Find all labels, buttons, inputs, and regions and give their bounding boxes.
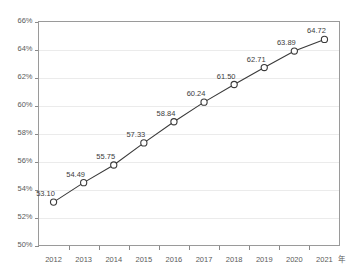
data-point-label: 60.24: [187, 89, 206, 98]
y-axis-tick-label: 66%: [17, 16, 32, 25]
data-point-marker: [261, 64, 267, 70]
data-point-label: 61.50: [217, 72, 236, 81]
data-point-marker: [291, 48, 297, 54]
x-axis-tick-label: 2013: [75, 255, 92, 264]
data-point-label: 58.84: [157, 109, 176, 118]
data-point-label: 55.75: [96, 152, 115, 161]
data-point-markers: [50, 36, 327, 205]
data-point-label: 53.10: [36, 189, 55, 198]
x-axis-tick-label: 2018: [226, 255, 243, 264]
data-point-label: 64.72: [307, 26, 326, 35]
chart-container: 50%52%54%56%58%60%62%64%66% 201220132014…: [0, 0, 348, 278]
data-point-marker: [50, 199, 56, 205]
data-point-label: 62.71: [247, 55, 266, 64]
x-axis-tick-label: 2015: [136, 255, 153, 264]
data-point-label: 57.33: [126, 130, 145, 139]
data-point-marker: [231, 81, 237, 87]
x-axis-tick-label: 2017: [196, 255, 213, 264]
x-axis-tick-label: 2014: [105, 255, 122, 264]
gridlines: [35, 23, 340, 247]
x-axis-tick-label: 2021: [316, 255, 333, 264]
y-axis-tick-label: 62%: [17, 72, 32, 81]
x-axis-tick-label: 2020: [286, 255, 303, 264]
y-axis-tick-labels: 50%52%54%56%58%60%62%64%66%: [17, 16, 32, 249]
data-point-marker: [171, 119, 177, 125]
y-axis-tick-label: 50%: [17, 240, 32, 249]
x-axis-tickmarks: [70, 246, 310, 250]
data-point-marker: [111, 162, 117, 168]
x-axis-tick-label: 2019: [256, 255, 273, 264]
y-axis-tick-label: 58%: [17, 128, 32, 137]
data-point-labels: 53.1054.4955.7557.3358.8460.2461.5062.71…: [36, 26, 326, 198]
x-axis-tick-label: 2012: [45, 255, 62, 264]
x-axis-tick-label: 2016: [166, 255, 183, 264]
line-chart-plot: 50%52%54%56%58%60%62%64%66% 201220132014…: [0, 0, 348, 278]
x-axis-unit-label: 年: [338, 254, 346, 264]
data-point-marker: [141, 140, 147, 146]
y-axis-tick-label: 60%: [17, 100, 32, 109]
data-point-marker: [201, 99, 207, 105]
y-axis-tick-label: 54%: [17, 184, 32, 193]
data-point-marker: [81, 180, 87, 186]
data-point-label: 54.49: [66, 170, 85, 179]
data-point-marker: [321, 36, 327, 42]
data-point-label: 63.89: [277, 38, 296, 47]
x-axis-tick-labels: 2012201320142015201620172018201920202021: [45, 255, 333, 264]
y-axis-tick-label: 52%: [17, 212, 32, 221]
plot-area-border: [39, 22, 340, 246]
y-axis-tick-label: 56%: [17, 156, 32, 165]
y-axis-tick-label: 64%: [17, 44, 32, 53]
series-line-path: [54, 39, 325, 202]
